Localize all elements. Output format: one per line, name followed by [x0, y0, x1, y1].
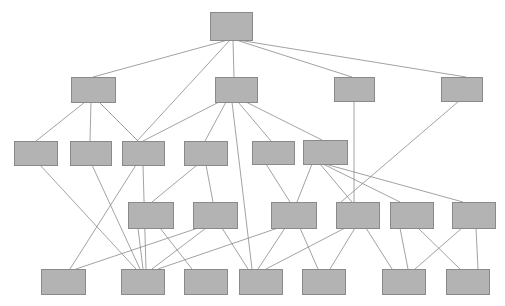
graph-node-n2-1[interactable]: [72, 78, 116, 103]
graph-node-n5-4[interactable]: [240, 270, 283, 295]
graph-diagram: [0, 0, 505, 306]
graph-node-n5-3[interactable]: [185, 270, 228, 295]
graph-node-n3-4[interactable]: [185, 142, 228, 166]
graph-node-n3-2[interactable]: [71, 142, 112, 166]
graph-node-n5-5[interactable]: [303, 270, 346, 295]
graph-node-n4-1[interactable]: [129, 203, 174, 229]
graph-node-n5-6[interactable]: [383, 270, 426, 295]
graph-node-n1-1[interactable]: [211, 13, 253, 41]
graph-node-n3-3[interactable]: [123, 142, 165, 166]
graph-node-n4-4[interactable]: [337, 203, 380, 229]
graph-node-n2-4[interactable]: [442, 78, 483, 102]
graph-node-n2-2[interactable]: [216, 78, 258, 103]
graph-node-n4-2[interactable]: [194, 203, 238, 229]
graph-node-n5-7[interactable]: [447, 270, 490, 295]
graph-node-n2-3[interactable]: [335, 78, 375, 102]
graph-node-n5-1[interactable]: [42, 270, 86, 295]
graph-node-n5-2[interactable]: [122, 270, 165, 295]
graph-node-n4-5[interactable]: [391, 203, 434, 229]
graph-node-n3-1[interactable]: [15, 142, 58, 166]
graph-node-n4-3[interactable]: [272, 203, 317, 229]
graph-node-n4-6[interactable]: [453, 203, 496, 229]
graph-node-n3-5[interactable]: [253, 142, 295, 165]
graph-node-n3-6[interactable]: [304, 141, 348, 165]
